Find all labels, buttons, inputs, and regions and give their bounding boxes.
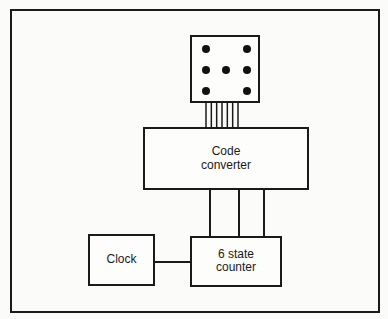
pip-dot (202, 87, 210, 95)
die-display (191, 36, 259, 102)
counter-to-converter-bus (210, 189, 264, 237)
pip-dot (243, 66, 251, 74)
clock-block: Clock (89, 235, 154, 285)
pip-dot (202, 66, 210, 74)
pip-dot (202, 45, 210, 53)
pip-dot (222, 66, 230, 74)
code-converter-label-line1: Code (212, 144, 241, 158)
code-converter-label-line2: converter (201, 158, 251, 172)
block-diagram: Code converter Clock 6 state counter (0, 0, 388, 319)
die-to-converter-bus (206, 102, 238, 128)
code-converter-block: Code converter (144, 128, 308, 189)
counter-label-line1: 6 state (218, 247, 254, 261)
clock-label: Clock (106, 252, 137, 266)
pip-dot (243, 45, 251, 53)
counter-label-line2: counter (216, 260, 256, 274)
pip-dot (243, 87, 251, 95)
counter-block: 6 state counter (191, 237, 281, 286)
